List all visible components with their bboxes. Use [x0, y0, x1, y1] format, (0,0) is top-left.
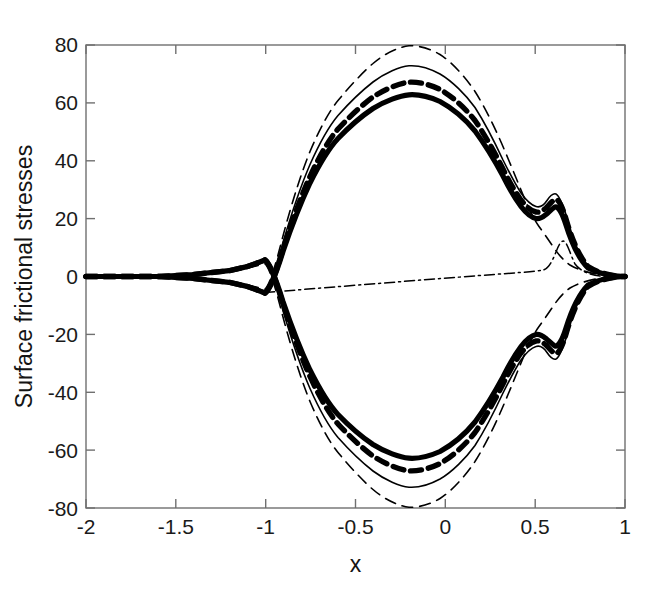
y-tick-label-20: 20 — [55, 207, 78, 230]
x-axis-title: x — [350, 551, 362, 577]
chart-canvas: 80 60 40 20 0 -20 -40 -60 -80 -2 -1.5 -1… — [0, 0, 660, 598]
y-axis-title: Surface frictional stresses — [11, 145, 37, 408]
x-tick-label-1: 1 — [619, 515, 631, 538]
y-tick-label-80: 80 — [55, 33, 78, 56]
x-tick-label-neg1: -1 — [256, 515, 275, 538]
y-tick-label-neg60: -60 — [48, 439, 78, 462]
x-tick-label-neg2: -2 — [77, 515, 96, 538]
x-tick-label-neg0p5: -0.5 — [337, 515, 373, 538]
y-tick-label-neg40: -40 — [48, 381, 78, 404]
y-tick-label-0: 0 — [66, 265, 78, 288]
x-tick-label-neg1p5: -1.5 — [158, 515, 194, 538]
x-tick-label-0: 0 — [439, 515, 451, 538]
x-tick-label-0p5: 0.5 — [521, 515, 550, 538]
y-tick-label-neg20: -20 — [48, 323, 78, 346]
y-tick-label-neg80: -80 — [48, 497, 78, 520]
y-tick-label-60: 60 — [55, 91, 78, 114]
figure-container: 80 60 40 20 0 -20 -40 -60 -80 -2 -1.5 -1… — [0, 0, 660, 598]
y-tick-label-40: 40 — [55, 149, 78, 172]
